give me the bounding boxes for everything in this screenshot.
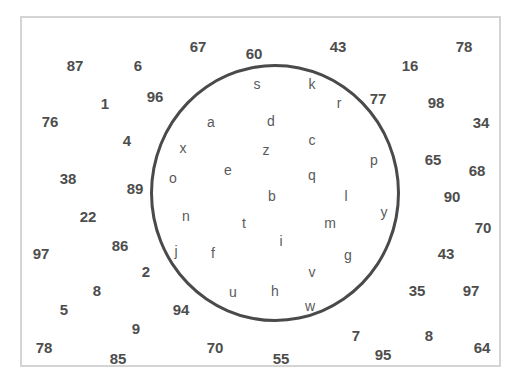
number-label: 2 [142, 264, 150, 279]
letter-label: q [308, 168, 316, 182]
letter-label: u [229, 285, 237, 299]
letter-label: g [344, 248, 352, 262]
number-label: 77 [370, 91, 387, 106]
number-label: 98 [428, 95, 445, 110]
number-label: 67 [190, 39, 207, 54]
letter-label: m [324, 216, 336, 230]
number-label: 65 [425, 152, 442, 167]
letter-label: w [305, 299, 315, 313]
number-label: 86 [112, 238, 129, 253]
number-label: 6 [134, 58, 142, 73]
number-label: 9 [132, 321, 140, 336]
letter-label: f [211, 246, 215, 260]
number-label: 60 [246, 46, 263, 61]
number-label: 4 [123, 133, 131, 148]
letter-label: x [180, 141, 187, 155]
number-label: 1 [101, 96, 109, 111]
number-label: 43 [330, 39, 347, 54]
number-label: 95 [375, 347, 392, 362]
letter-label: r [337, 96, 342, 110]
number-label: 96 [147, 89, 164, 104]
number-label: 94 [173, 302, 190, 317]
number-label: 16 [402, 58, 419, 73]
number-label: 64 [474, 340, 491, 355]
number-label: 35 [409, 283, 426, 298]
letter-label: j [174, 244, 177, 258]
number-label: 78 [456, 39, 473, 54]
letter-label: t [242, 216, 246, 230]
letter-label: v [309, 265, 316, 279]
number-label: 78 [36, 340, 53, 355]
letter-label: z [263, 143, 270, 157]
number-label: 7 [352, 328, 360, 343]
number-label: 8 [425, 328, 433, 343]
number-label: 8 [93, 283, 101, 298]
letter-label: y [381, 205, 388, 219]
number-label: 22 [80, 209, 97, 224]
number-label: 70 [475, 220, 492, 235]
letter-label: a [207, 115, 215, 129]
number-label: 97 [33, 246, 50, 261]
number-label: 43 [438, 246, 455, 261]
letter-label: c [309, 133, 316, 147]
letter-label: i [279, 234, 282, 248]
number-label: 38 [60, 171, 77, 186]
number-label: 5 [60, 302, 68, 317]
letter-label: e [224, 163, 232, 177]
letter-label: o [169, 171, 177, 185]
number-label: 89 [127, 181, 144, 196]
letter-label: h [271, 284, 279, 298]
letter-label: d [267, 114, 275, 128]
number-label: 85 [110, 351, 127, 366]
number-label: 87 [67, 58, 84, 73]
number-label: 97 [463, 283, 480, 298]
number-label: 55 [273, 351, 290, 366]
letter-label: n [182, 209, 190, 223]
number-label: 76 [42, 114, 59, 129]
number-label: 34 [473, 115, 490, 130]
number-label: 90 [444, 189, 461, 204]
letter-label: l [344, 189, 347, 203]
letter-label: p [370, 153, 378, 167]
number-label: 68 [469, 163, 486, 178]
letter-label: k [309, 77, 316, 91]
number-label: 70 [207, 340, 224, 355]
letter-label: b [268, 189, 276, 203]
letter-label: s [254, 77, 261, 91]
